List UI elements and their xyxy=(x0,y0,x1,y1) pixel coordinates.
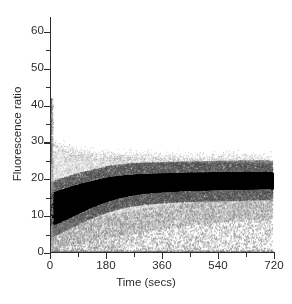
x-tick-label-540: 540 xyxy=(195,259,241,271)
x-tick-label-720: 720 xyxy=(251,259,292,271)
y-axis-title: Fluorescence ratio xyxy=(11,54,23,214)
y-tick-major-50 xyxy=(44,69,50,70)
y-tick-label-10: 10 xyxy=(4,208,44,220)
x-tick-label-0: 0 xyxy=(27,259,73,271)
y-tick-label-60: 60 xyxy=(4,24,44,36)
y-tick-major-60 xyxy=(44,32,50,33)
x-tick-label-180: 180 xyxy=(83,259,129,271)
y-tick-minor-15 xyxy=(46,198,50,199)
scatter-density-canvas xyxy=(50,17,274,253)
y-tick-major-30 xyxy=(44,142,50,143)
x-tick-label-360: 360 xyxy=(139,259,185,271)
y-tick-minor-5 xyxy=(46,235,50,236)
x-tick-minor-90 xyxy=(78,253,79,257)
figure-root: 01020304050600180360540720 Time (secs) F… xyxy=(0,0,292,304)
plot-data-area xyxy=(50,17,274,253)
x-tick-minor-270 xyxy=(134,253,135,257)
x-tick-minor-450 xyxy=(190,253,191,257)
y-tick-minor-45 xyxy=(46,87,50,88)
y-tick-label-0: 0 xyxy=(4,245,44,257)
x-tick-minor-630 xyxy=(246,253,247,257)
y-tick-label-50: 50 xyxy=(4,61,44,73)
y-tick-label-30: 30 xyxy=(4,134,44,146)
y-tick-major-20 xyxy=(44,179,50,180)
y-tick-label-20: 20 xyxy=(4,171,44,183)
y-tick-major-10 xyxy=(44,216,50,217)
y-tick-major-40 xyxy=(44,106,50,107)
x-axis-title: Time (secs) xyxy=(0,276,292,288)
y-tick-minor-35 xyxy=(46,124,50,125)
y-axis-line xyxy=(50,17,51,253)
y-tick-minor-55 xyxy=(46,50,50,51)
y-tick-minor-25 xyxy=(46,161,50,162)
y-tick-label-40: 40 xyxy=(4,98,44,110)
